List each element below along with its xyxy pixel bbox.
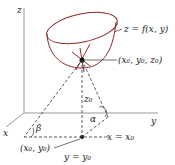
surface-label: z = f(x, y)	[124, 25, 168, 34]
line-x-label: x = x₀	[107, 133, 134, 142]
point-3d-label: (x₀, y₀, z₀)	[118, 56, 162, 65]
gradient-diagram: z y x z = f(x, y) (x₀, y₀, z₀) z₀ α β x …	[0, 0, 175, 165]
axis-x-label: x	[3, 129, 8, 138]
axis-y-label: y	[151, 117, 156, 126]
angle-alpha: α	[90, 115, 96, 124]
height-label: z₀	[84, 95, 92, 104]
point-2d-label: (x₀, y₀)	[20, 144, 50, 153]
angle-beta: β	[36, 124, 41, 133]
line-y-label: y = y₀	[64, 153, 91, 162]
axis-z-label: z	[17, 6, 22, 15]
